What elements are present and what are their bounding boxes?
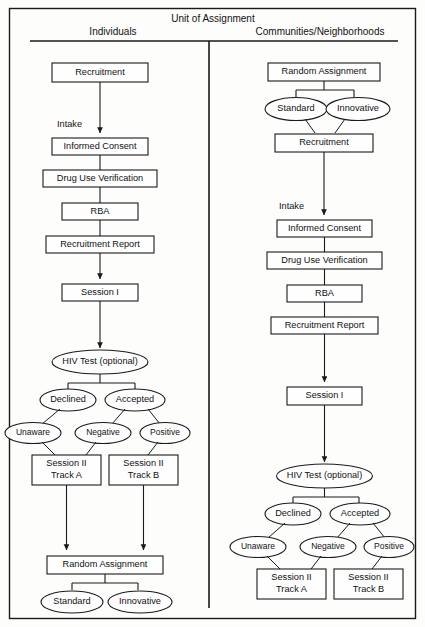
label-intake-right: Intake — [279, 201, 304, 211]
edge-l-random-bracket — [72, 574, 138, 590]
edge-r-innovative-to-recruitment — [335, 119, 345, 133]
node-l-informed-consent: Informed Consent — [52, 138, 148, 155]
node-label: Positive — [150, 427, 180, 437]
node-label: Random Assignment — [63, 559, 148, 569]
node-r-positive: Positive — [364, 537, 414, 558]
node-label: Informed Consent — [288, 223, 361, 233]
edge-l-positive-to-track-b — [148, 442, 158, 455]
node-l-rba: RBA — [62, 203, 138, 220]
edge-r-unaware-to-track-a — [267, 556, 280, 569]
node-l-standard: Standard — [41, 591, 103, 613]
edge-l-accepted-to-positive — [148, 409, 160, 424]
edge-r-accepted-to-positive — [373, 523, 385, 538]
node-label: HIV Test (optional) — [287, 470, 362, 480]
node-l-innovative: Innovative — [108, 591, 172, 613]
node-label: Accepted — [116, 394, 154, 404]
edge-r-declined-to-unaware — [268, 523, 285, 538]
node-label-line2: Track B — [353, 584, 384, 594]
node-label: Recruitment Report — [60, 239, 140, 249]
node-l-unaware: Unaware — [5, 423, 61, 444]
node-label: Innovative — [119, 596, 161, 606]
node-label: Recruitment — [299, 137, 349, 147]
node-label: RBA — [315, 288, 335, 298]
edge-l-declined-to-unaware — [42, 409, 60, 424]
node-r-random-assignment: Random Assignment — [268, 63, 380, 81]
node-label: HIV Test (optional) — [62, 356, 137, 366]
edge-l-hiv-bracket — [68, 374, 135, 390]
node-label: Unaware — [16, 427, 50, 437]
node-label: Negative — [311, 541, 345, 551]
node-label: Session II — [123, 458, 163, 468]
node-l-session-i: Session I — [62, 284, 138, 301]
figure-title: Unit of Assignment — [171, 13, 255, 24]
node-label: Session II — [348, 572, 388, 582]
node-label: Recruitment — [75, 67, 125, 77]
node-r-recruitment: Recruitment — [275, 134, 373, 152]
node-label: Session II — [271, 572, 311, 582]
node-l-hiv-test: HIV Test (optional) — [52, 350, 148, 374]
label-intake-left: Intake — [57, 119, 82, 129]
column-header-individuals: Individuals — [89, 26, 136, 37]
node-label-line2: Track B — [128, 470, 159, 480]
node-label: Declined — [275, 508, 311, 518]
node-label-line2: Track A — [276, 584, 308, 594]
edge-l-negative-to-track-a — [86, 442, 96, 455]
node-l-recruitment: Recruitment — [52, 63, 148, 82]
node-label: Session II — [46, 458, 86, 468]
figure-container: Unit of Assignment Individuals Communiti… — [0, 0, 425, 627]
node-l-session-ii-b: Session II Track B — [109, 455, 178, 485]
node-r-innovative: Innovative — [326, 98, 390, 121]
node-r-negative: Negative — [300, 537, 356, 558]
node-r-rba: RBA — [287, 285, 362, 302]
edge-r-negative-to-track-a — [311, 556, 321, 569]
edge-r-accepted-to-negative — [337, 523, 350, 538]
node-l-session-ii-a: Session II Track A — [32, 455, 101, 485]
node-r-drug-use-verification: Drug Use Verification — [267, 252, 382, 269]
node-l-accepted: Accepted — [105, 389, 165, 411]
node-l-drug-use-verification: Drug Use Verification — [43, 170, 157, 187]
node-label: Session I — [81, 287, 119, 297]
node-label: Standard — [53, 596, 90, 606]
node-label: Random Assignment — [282, 66, 367, 76]
node-label: Session I — [306, 390, 344, 400]
node-r-unaware: Unaware — [230, 537, 286, 558]
node-label-line2: Track A — [51, 470, 83, 480]
column-header-communities: Communities/Neighborhoods — [256, 26, 385, 37]
node-label: Negative — [86, 427, 120, 437]
node-r-session-ii-b: Session II Track B — [334, 569, 403, 599]
node-label: Innovative — [337, 103, 379, 113]
node-label: RBA — [91, 206, 111, 216]
node-r-standard: Standard — [265, 98, 327, 121]
node-l-declined: Declined — [40, 389, 96, 411]
node-label: Positive — [374, 541, 404, 551]
node-r-recruitment-report: Recruitment Report — [271, 317, 378, 334]
edge-r-positive-to-track-b — [372, 556, 382, 569]
node-r-declined: Declined — [265, 503, 321, 525]
node-r-informed-consent: Informed Consent — [277, 220, 372, 237]
edge-r-standard-to-recruitment — [305, 119, 315, 133]
node-l-positive: Positive — [140, 423, 190, 444]
node-r-session-ii-a: Session II Track A — [257, 569, 326, 599]
edge-l-accepted-to-negative — [112, 409, 125, 424]
flowchart-diagram: Unit of Assignment Individuals Communiti… — [0, 0, 425, 627]
node-label: Accepted — [341, 508, 379, 518]
node-r-hiv-test: HIV Test (optional) — [277, 464, 373, 488]
edge-l-unaware-to-track-a — [42, 442, 55, 455]
node-r-accepted: Accepted — [330, 503, 390, 525]
node-label: Standard — [277, 103, 314, 113]
node-label: Drug Use Verification — [281, 255, 367, 265]
node-r-session-i: Session I — [287, 387, 362, 405]
node-l-recruitment-report: Recruitment Report — [46, 236, 154, 253]
node-label: Informed Consent — [63, 141, 136, 151]
node-l-negative: Negative — [75, 423, 131, 444]
node-label: Recruitment Report — [285, 320, 365, 330]
edge-r-hiv-bracket — [293, 488, 359, 504]
edge-r-random-bracket — [296, 81, 354, 97]
node-label: Drug Use Verification — [57, 173, 143, 183]
node-l-random-assignment: Random Assignment — [47, 556, 163, 574]
node-label: Unaware — [241, 541, 275, 551]
node-label: Declined — [50, 394, 86, 404]
